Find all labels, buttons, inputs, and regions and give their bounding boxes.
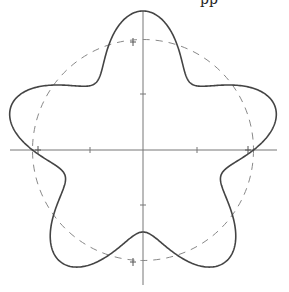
polar-star-diagram <box>0 0 289 292</box>
